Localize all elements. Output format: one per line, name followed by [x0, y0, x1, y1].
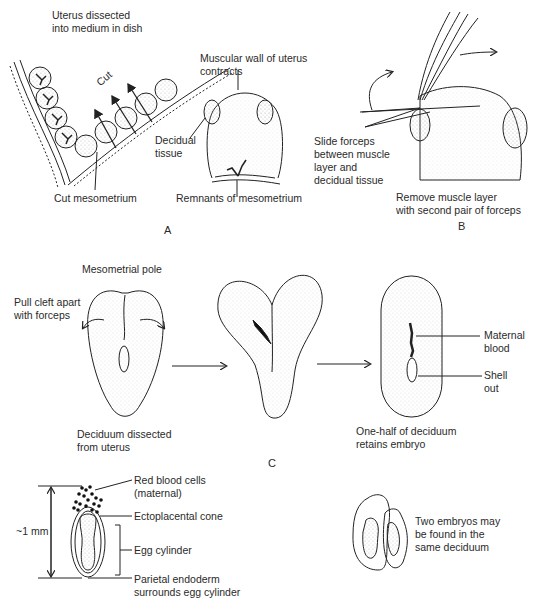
label-decidual-tissue: Decidual tissue — [155, 134, 196, 160]
panel-letter-a: A — [164, 224, 171, 236]
deciduum-opened-illustration — [218, 275, 322, 418]
label-muscular-wall: Muscular wall of uterus contracts — [200, 52, 307, 78]
label-mesometrial-pole: Mesometrial pole — [82, 263, 162, 276]
two-embryos-illustration — [353, 495, 407, 570]
label-egg-cylinder: Egg cylinder — [134, 544, 192, 557]
label-ectoplacental-cone: Ectoplacental cone — [134, 510, 223, 523]
uterus-strand-illustration — [10, 60, 234, 190]
label-one-half-deciduum: One-half of deciduum retains embryo — [356, 425, 456, 451]
label-remove-muscle: Remove muscle layer with second pair of … — [396, 191, 521, 217]
label-shell-out: Shell out — [484, 369, 507, 395]
label-slide-forceps: Slide forceps between muscle layer and d… — [314, 135, 390, 187]
egg-cylinder-illustration — [38, 480, 132, 578]
label-red-blood-cells: Red blood cells (maternal) — [134, 474, 206, 500]
deciduum-whole-illustration — [83, 291, 164, 416]
label-uterus-dissected: Uterus dissected into medium in dish — [52, 9, 142, 35]
label-scale-1mm: ~1 mm — [16, 525, 48, 538]
panel-letter-b: B — [458, 220, 465, 232]
contracted-uterus-illustration — [190, 70, 283, 197]
deciduum-half-illustration — [381, 276, 482, 417]
label-maternal-blood: Maternal blood — [484, 329, 525, 355]
label-cut-mesometrium: Cut mesometrium — [54, 192, 137, 205]
label-remnants-mesometrium: Remnants of mesometrium — [176, 192, 302, 205]
panel-letter-c: C — [268, 457, 276, 469]
label-parietal-endoderm: Parietal endoderm surrounds egg cylinder — [134, 573, 240, 599]
label-two-embryos: Two embryos may be found in the same dec… — [415, 515, 500, 554]
label-pull-cleft: Pull cleft apart with forceps — [14, 296, 81, 322]
label-deciduum-dissected: Deciduum dissected from uterus — [77, 428, 172, 454]
